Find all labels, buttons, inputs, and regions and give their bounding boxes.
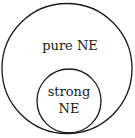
inner-label-line2: NE [59, 101, 80, 116]
outer-label: pure NE [42, 38, 98, 53]
inner-label-line1: strong [48, 84, 91, 99]
nested-venn-diagram: pure NE strong NE [0, 0, 135, 138]
